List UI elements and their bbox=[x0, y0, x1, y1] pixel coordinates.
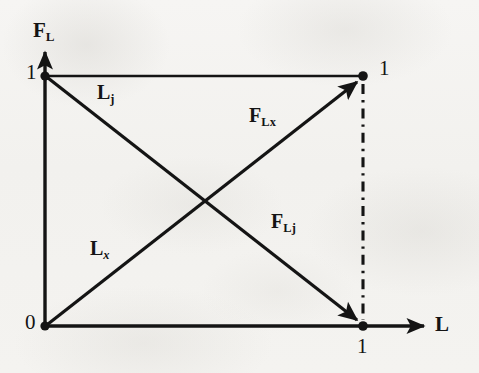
figure-canvas: FL L 1 0 1 1 Lj Lx FLx FLj bbox=[0, 0, 479, 373]
curve-label-flj-base: F bbox=[271, 210, 283, 232]
curve-label-flx-base: F bbox=[249, 104, 261, 126]
y-axis-label-subscript: L bbox=[46, 29, 55, 44]
curve-label-flx-subscript: Lx bbox=[261, 115, 276, 129]
curve-label-flj-subscript: Lj bbox=[283, 221, 296, 235]
curve-label-lj-base: L bbox=[97, 81, 110, 103]
curve-label-lj: Lj bbox=[97, 82, 115, 102]
tick-label-corner-one: 1 bbox=[379, 58, 390, 79]
point-origin bbox=[40, 321, 49, 330]
point-bottom-right bbox=[358, 321, 368, 331]
descending-diagonal-line bbox=[48, 78, 357, 320]
point-top-right bbox=[358, 71, 368, 81]
curve-label-lx-base: L bbox=[90, 237, 103, 259]
curve-label-lx: Lx bbox=[90, 238, 110, 258]
curve-label-flx: FLx bbox=[249, 105, 276, 125]
ascending-diagonal-line bbox=[48, 82, 357, 324]
diagram-svg bbox=[0, 0, 479, 373]
tick-label-origin: 0 bbox=[25, 312, 36, 333]
y-axis-label-base: F bbox=[33, 18, 46, 42]
curve-label-lx-subscript: x bbox=[103, 248, 109, 262]
tick-label-x-one: 1 bbox=[357, 336, 368, 357]
tick-label-y-one: 1 bbox=[26, 62, 37, 83]
point-top-left bbox=[40, 71, 49, 80]
curve-label-flj: FLj bbox=[271, 211, 296, 231]
curve-label-lj-subscript: j bbox=[110, 92, 114, 106]
x-axis-label: L bbox=[435, 314, 449, 335]
y-axis-label: FL bbox=[33, 20, 55, 41]
